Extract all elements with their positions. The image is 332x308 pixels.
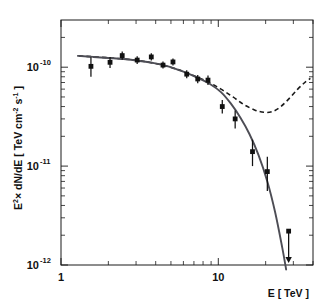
plot-canvas: 110 10-1010-1110-12 E [ TeV ] E2× dN/dE … bbox=[0, 0, 332, 308]
y-title-mid: s bbox=[12, 99, 24, 108]
y-tick-mantissa: 10 bbox=[27, 61, 39, 73]
data-marker bbox=[135, 58, 140, 63]
data-marker bbox=[250, 149, 255, 154]
x-axis-title: E [ TeV ] bbox=[268, 287, 309, 299]
y-tick-mantissa: 10 bbox=[27, 160, 39, 172]
data-marker bbox=[89, 64, 94, 69]
data-marker bbox=[233, 117, 238, 122]
y-title-E: E bbox=[12, 203, 24, 210]
data-marker bbox=[149, 55, 154, 60]
y-axis-title: E2× dN/dE [ TeV cm-2 s-1 ] bbox=[12, 86, 24, 210]
data-marker bbox=[265, 169, 270, 174]
x-tick-label: 10 bbox=[212, 271, 224, 283]
y-tick-exponent: -12 bbox=[40, 256, 51, 265]
data-marker bbox=[184, 72, 189, 77]
y-title-end: ] bbox=[12, 86, 24, 92]
data-marker bbox=[206, 78, 211, 83]
x-tick-label: 1 bbox=[58, 271, 64, 283]
upper-limit-marker bbox=[286, 229, 291, 234]
y-tick-mantissa: 10 bbox=[27, 259, 39, 271]
y-tick-exponent: -10 bbox=[40, 58, 51, 67]
data-marker bbox=[108, 60, 113, 65]
y-title-rest: × dN/dE [ TeV cm bbox=[12, 114, 24, 199]
data-marker bbox=[195, 77, 200, 82]
y-axis-title-text: E2× dN/dE [ TeV cm-2 s-1 ] bbox=[12, 86, 24, 210]
data-marker bbox=[171, 60, 176, 65]
data-marker bbox=[120, 53, 125, 58]
data-marker bbox=[220, 104, 225, 109]
spectral-energy-distribution-figure: 110 10-1010-1110-12 E [ TeV ] E2× dN/dE … bbox=[0, 0, 332, 308]
data-marker bbox=[161, 63, 166, 68]
y-tick-exponent: -11 bbox=[40, 157, 50, 166]
